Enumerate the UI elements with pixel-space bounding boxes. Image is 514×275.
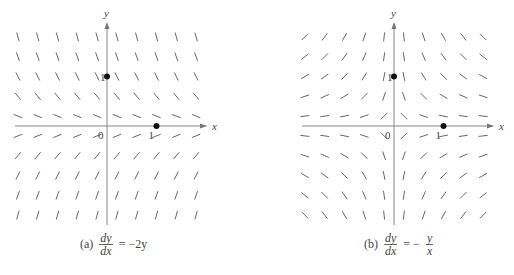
slope-segment [341,94,349,99]
slope-segment [302,34,308,40]
slope-segment [441,53,446,60]
slope-segment [440,153,448,158]
slope-segment [480,34,486,40]
y-axis-label: y [390,7,396,19]
x-axis-label: x [211,120,217,132]
slope-segment [175,33,177,42]
slope-segment [154,72,158,80]
slope-segment [340,115,349,117]
slope-segment [300,116,309,117]
slope-segment [14,114,22,117]
slope-segment [460,54,466,60]
slope-segment [133,134,141,137]
slope-segment [55,171,59,179]
slope-segment [36,191,39,199]
slope-segment [113,134,121,137]
slope-segment [135,52,138,60]
panel-a-direction-field: xy011 (a) dy dx = −2y [0,0,257,275]
slope-segment [342,53,347,60]
slope-segment [74,93,80,100]
slope-segment [76,211,78,220]
slope-segment [479,173,487,177]
slope-segment [56,52,59,60]
x-axis-arrow-icon [487,124,494,129]
slope-segment [53,114,61,117]
slope-segment [173,93,179,100]
slope-segment [322,33,328,40]
slope-segment [383,151,386,160]
slope-segment [479,135,488,136]
slope-segment [36,52,39,60]
slope-segment [419,115,428,118]
slope-segment [172,134,180,137]
slope-segment [56,191,59,199]
slope-segment [55,93,61,100]
slope-segment [301,154,310,157]
x-tick-label: 1 [149,129,155,141]
slope-segment [363,33,366,42]
slope-segment [95,72,99,80]
slope-segment [56,33,58,42]
origin-label: 0 [98,129,104,141]
panel-b-direction-field: xy011 (b) dy dx = − y x [257,0,514,275]
slope-segment [320,135,329,136]
slope-segment [17,33,19,42]
slope-segment [34,134,42,137]
slope-segment [155,191,158,199]
slope-segment [360,115,369,118]
slope-segment [321,74,328,79]
slope-segment [16,52,19,60]
slope-segment [403,211,404,220]
slope-segment [460,74,467,79]
slope-segment [193,93,199,100]
slope-segment [361,93,367,99]
slope-segment [342,33,346,41]
slope-segment [135,33,137,42]
slope-segment [459,115,468,116]
slope-segment [16,171,20,179]
slope-segment [421,153,427,159]
slope-segment [321,173,328,178]
slope-segment [17,211,19,220]
slope-segment [301,95,310,98]
slope-segment [301,74,309,78]
slope-segment [114,152,120,159]
slope-segment [322,212,328,219]
slope-segment [192,114,200,117]
marked-point [154,123,160,129]
slope-segment [174,72,178,80]
slope-segment [195,191,198,199]
slope-segment [479,116,488,117]
slope-segment [155,211,157,220]
slope-segment [341,172,347,178]
slope-segment [73,134,81,137]
slope-segment [35,93,41,100]
slope-segment [36,211,38,220]
derivative-fraction: dy dx [384,232,397,257]
slope-segment [135,171,139,179]
slope-segment [362,172,367,180]
slope-segment [154,152,160,159]
slope-segment [439,115,448,117]
slope-segment [459,154,467,158]
slope-segment [441,211,445,219]
slope-segment [402,151,405,160]
marked-point [104,74,110,80]
slope-segment [115,72,119,80]
slope-segment [301,173,309,177]
slope-segment [480,54,487,60]
slope-segment [14,134,22,137]
slope-segment [403,72,405,81]
slope-segment [113,114,121,117]
slope-segment [116,33,118,42]
y-axis-label: y [103,7,109,19]
slope-segment [194,72,198,80]
slope-segment [440,73,446,79]
slope-segment [175,191,178,199]
slope-segment [381,113,387,119]
slope-segment [36,72,40,80]
slope-segment [135,72,139,80]
slope-segment [321,95,329,99]
slope-segment [340,135,349,137]
slope-segment [175,52,178,60]
